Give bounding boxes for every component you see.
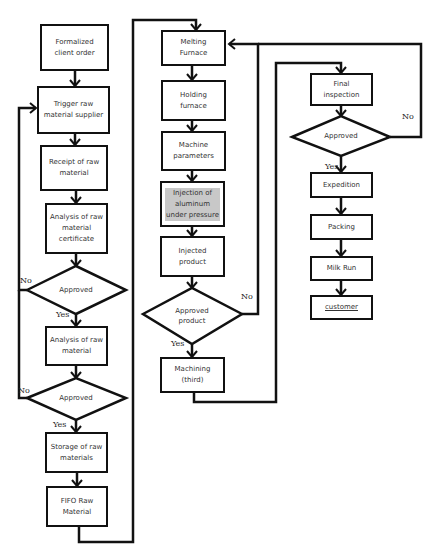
process-machine-parameters: Machine parameters bbox=[161, 131, 226, 171]
process-milk-run: Milk Run bbox=[310, 256, 373, 281]
edge-label-no-1: No bbox=[20, 276, 32, 285]
no-return-loop-column-1 bbox=[19, 103, 36, 398]
node-label: Analysis of raw material bbox=[50, 335, 103, 357]
edge-label-yes-2: Yes bbox=[53, 420, 66, 429]
decision-label-approved-final: Approved bbox=[324, 131, 358, 141]
process-receipt-of-raw-material: Receipt of raw material bbox=[40, 145, 108, 191]
edge-label-yes-1: Yes bbox=[56, 310, 69, 319]
node-label: Formalized client order bbox=[45, 37, 104, 59]
node-label: Analysis of raw material certificate bbox=[50, 212, 103, 245]
process-customer: customer bbox=[310, 295, 373, 320]
process-expedition: Expedition bbox=[310, 172, 373, 198]
process-analysis-of-raw-material-certificate: Analysis of raw material certificate bbox=[45, 203, 108, 254]
node-label: Holding furnace bbox=[166, 90, 221, 112]
node-label: customer bbox=[325, 302, 358, 313]
decision-label-approved-1: Approved bbox=[59, 285, 93, 295]
process-fifo-raw-material: FIFO Raw Material bbox=[46, 486, 108, 527]
process-machining-third: Machining (third) bbox=[160, 357, 225, 393]
edge-label-yes-4: Yes bbox=[325, 162, 338, 171]
process-storage-of-raw-materials: Storage of raw materials bbox=[45, 432, 108, 473]
process-melting-furnace: Melting Furnace bbox=[161, 30, 226, 66]
process-holding-furnace: Holding furnace bbox=[161, 80, 226, 121]
node-label: Receipt of raw material bbox=[45, 157, 103, 179]
edge-label-no-3: No bbox=[241, 292, 253, 301]
node-label: Injected product bbox=[165, 246, 220, 268]
node-label: Trigger raw material supplier bbox=[42, 99, 105, 121]
process-final-inspection: Final inspection bbox=[310, 73, 373, 106]
node-label: Final inspection bbox=[315, 79, 368, 101]
process-injection-of-aluminum-under-pressure: Injection of aluminum under pressure bbox=[160, 181, 225, 227]
node-label: Expedition bbox=[323, 180, 360, 191]
edge-label-no-2: No bbox=[18, 386, 30, 395]
process-trigger-raw-material-supplier: Trigger raw material supplier bbox=[37, 86, 110, 134]
node-label: FIFO Raw Material bbox=[51, 496, 103, 518]
node-label: Packing bbox=[328, 222, 355, 233]
no-return-loop-column-2 bbox=[229, 39, 258, 314]
node-label: Injection of aluminum under pressure bbox=[165, 188, 220, 221]
node-label: Milk Run bbox=[327, 263, 357, 274]
node-label: Machining (third) bbox=[165, 364, 220, 386]
decision-label-approved-2: Approved bbox=[59, 393, 93, 403]
process-packing: Packing bbox=[310, 214, 373, 240]
node-label: Melting Furnace bbox=[166, 37, 221, 59]
process-formalized-client-order: Formalized client order bbox=[40, 24, 109, 71]
edge-label-no-4: No bbox=[402, 112, 414, 121]
node-label: Machine parameters bbox=[166, 140, 221, 162]
decision-label-approved-product: Approved product bbox=[172, 306, 212, 326]
edge-label-yes-3: Yes bbox=[171, 339, 184, 348]
node-label: Storage of raw materials bbox=[50, 442, 103, 464]
process-analysis-of-raw-material: Analysis of raw material bbox=[45, 326, 108, 366]
process-injected-product: Injected product bbox=[160, 236, 225, 277]
